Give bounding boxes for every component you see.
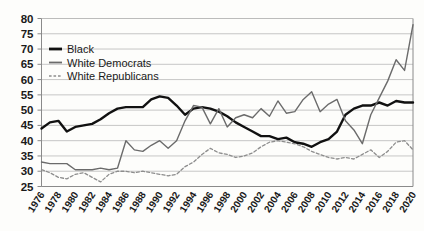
legend-label-white-republicans: White Republicans [67,70,159,82]
x-tick-label-1990: 1990 [144,189,166,214]
x-tick-label-1998: 1998 [211,189,233,214]
line-chart: 253035404550556065707580 197619781980198… [0,0,424,231]
y-tick-label-65: 65 [21,58,34,70]
x-tick-label-1988: 1988 [127,189,149,214]
y-tick-label-30: 30 [21,165,34,177]
chart-container: 253035404550556065707580 197619781980198… [0,0,424,231]
y-tick-label-75: 75 [21,28,34,40]
series-line-black [42,96,414,146]
y-tick-label-40: 40 [21,135,34,147]
y-tick-label-60: 60 [21,74,34,86]
y-tick-label-25: 25 [21,181,34,193]
x-tick-label-2010: 2010 [312,189,334,214]
x-tick-label-2006: 2006 [279,189,301,214]
y-tick-label-45: 45 [21,119,34,131]
series-line-white-republicans [42,141,414,182]
x-tick-label-2004: 2004 [262,189,284,214]
x-tick-label-1980: 1980 [59,189,81,214]
x-tick-label-2002: 2002 [245,189,267,214]
series-line-white-democrats [42,25,414,170]
legend-label-white-democrats: White Democrats [67,57,152,69]
x-tick-label-1978: 1978 [42,189,64,214]
y-axis-tick-labels: 253035404550556065707580 [21,13,42,193]
x-tick-label-2012: 2012 [329,189,351,214]
gridlines-group [42,19,414,187]
x-tick-label-2016: 2016 [363,189,385,214]
data-series-group [42,25,414,182]
x-axis-tick-labels: 1976197819801982198419861988199019921994… [25,189,418,214]
x-tick-label-1984: 1984 [93,189,115,214]
x-tick-label-2000: 2000 [228,189,250,214]
axes-group [42,19,414,187]
y-tick-label-55: 55 [21,89,34,101]
x-tick-label-2014: 2014 [346,189,368,214]
y-tick-label-35: 35 [21,150,34,162]
x-tick-label-2018: 2018 [380,189,402,214]
y-tick-label-50: 50 [21,104,34,116]
y-tick-label-70: 70 [21,43,34,55]
x-tick-label-2020: 2020 [397,189,419,214]
x-tick-label-1994: 1994 [177,189,199,214]
x-tick-label-2008: 2008 [296,189,318,214]
legend-label-black: Black [67,43,94,55]
x-tick-label-1996: 1996 [194,189,216,214]
y-tick-label-80: 80 [21,13,34,25]
x-tick-label-1976: 1976 [25,189,47,214]
x-tick-label-1992: 1992 [160,189,182,214]
x-tick-label-1986: 1986 [110,189,132,214]
x-tick-label-1982: 1982 [76,189,98,214]
